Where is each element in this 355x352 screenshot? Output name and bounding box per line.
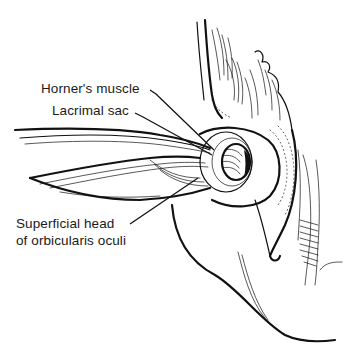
label-lacrimal-sac: Lacrimal sac [52, 102, 129, 119]
upper-tissue-column [197, 20, 292, 130]
label-line-1: Superficial head [16, 215, 126, 232]
anatomical-illustration [0, 0, 355, 352]
lower-right-structures [255, 130, 342, 285]
label-line-2: of orbicularis oculi [16, 232, 126, 249]
label-horners-muscle: Horner's muscle [41, 80, 140, 97]
lacrimal-sac-drawing [200, 126, 294, 215]
label-superficial-head-orbicularis: Superficial head of orbicularis oculi [16, 215, 126, 249]
